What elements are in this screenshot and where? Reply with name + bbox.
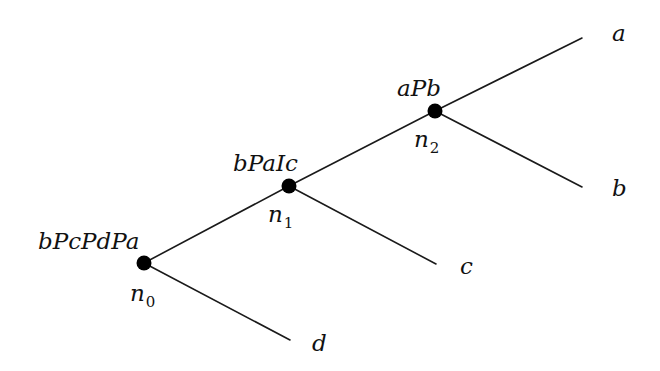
node-n0 xyxy=(137,256,152,271)
preference-label-n1: bPaIc xyxy=(233,152,298,175)
leaf-label-c: c xyxy=(460,255,473,278)
edge-n0-d xyxy=(144,263,290,340)
leaf-label-a: a xyxy=(612,22,626,45)
node-n1 xyxy=(282,179,297,194)
tree-diagram xyxy=(0,0,660,371)
node-name-n0: n0 xyxy=(130,282,155,305)
node-n2 xyxy=(428,104,443,119)
node-name-n1: n1 xyxy=(268,203,293,226)
preference-label-n2: aPb xyxy=(397,77,441,100)
leaf-label-d: d xyxy=(312,332,327,355)
leaf-label-b: b xyxy=(612,177,627,200)
edge-n2-a xyxy=(435,38,582,111)
edge-n1-c xyxy=(289,186,436,264)
preference-label-n0: bPcPdPa xyxy=(38,230,139,253)
node-name-n2: n2 xyxy=(414,128,439,151)
edge-n2-b xyxy=(435,111,582,187)
